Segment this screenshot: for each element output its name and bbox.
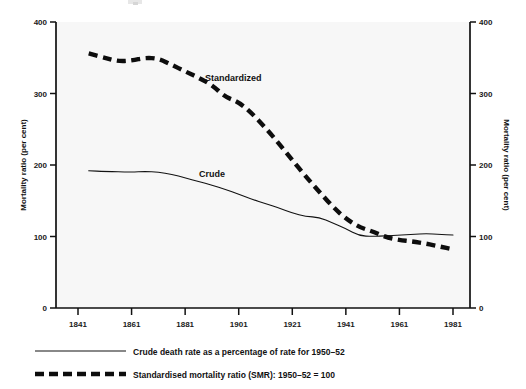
x-tick-label: 1981 — [444, 320, 462, 329]
y-tick-label-left: 300 — [34, 90, 48, 99]
x-tick-label: 1881 — [176, 320, 194, 329]
left-axis-ticks — [50, 22, 56, 308]
y-tick-label-left: 0 — [43, 304, 48, 313]
y-tick-label-left: 200 — [34, 161, 48, 170]
y-tick-label-right: 200 — [479, 161, 493, 170]
chart-legend: Crude death rate as a percentage of rate… — [35, 347, 345, 380]
mortality-ratio-chart-figure: 0100200300400 Mortality ratio (per cent)… — [0, 0, 526, 389]
chart-canvas: 0100200300400 Mortality ratio (per cent)… — [0, 0, 526, 389]
x-axis-ticks — [78, 308, 453, 315]
right-axis-title: Mortality ratio (per cent) — [502, 119, 511, 211]
scan-artifact — [128, 0, 142, 5]
x-tick-label: 1861 — [123, 320, 141, 329]
legend-label-crude: Crude death rate as a percentage of rate… — [133, 347, 345, 357]
x-tick-label: 1921 — [283, 320, 301, 329]
right-axis: 0100200300400 Mortality ratio (per cent) — [470, 18, 511, 313]
y-tick-label-right: 100 — [479, 233, 493, 242]
legend-item-standardized: Standardised mortality ratio (SMR): 1950… — [35, 370, 335, 380]
x-tick-label: 1901 — [230, 320, 248, 329]
y-tick-label-left: 100 — [34, 233, 48, 242]
y-tick-label-right: 400 — [479, 18, 493, 27]
series-annotation-standardized: Standardized — [205, 73, 262, 83]
bottom-axis: 18411861188119011921194119611981 — [56, 308, 470, 329]
right-axis-tick-labels: 0100200300400 — [479, 18, 493, 313]
y-tick-label-right: 300 — [479, 90, 493, 99]
legend-item-crude: Crude death rate as a percentage of rate… — [35, 347, 345, 357]
x-tick-label: 1841 — [69, 320, 87, 329]
legend-label-standardized: Standardised mortality ratio (SMR): 1950… — [133, 370, 335, 380]
series-annotation-crude: Crude — [199, 169, 225, 179]
x-tick-label: 1961 — [391, 320, 409, 329]
left-axis-title: Mortality ratio (per cent) — [19, 119, 28, 211]
y-tick-label-right: 0 — [479, 304, 484, 313]
left-axis: 0100200300400 Mortality ratio (per cent) — [19, 18, 56, 313]
right-axis-ticks — [470, 22, 476, 308]
y-tick-label-left: 400 — [34, 18, 48, 27]
plot-area-background — [56, 22, 470, 308]
left-axis-tick-labels: 0100200300400 — [34, 18, 48, 313]
x-tick-label: 1941 — [337, 320, 355, 329]
x-axis-tick-labels: 18411861188119011921194119611981 — [69, 320, 462, 329]
